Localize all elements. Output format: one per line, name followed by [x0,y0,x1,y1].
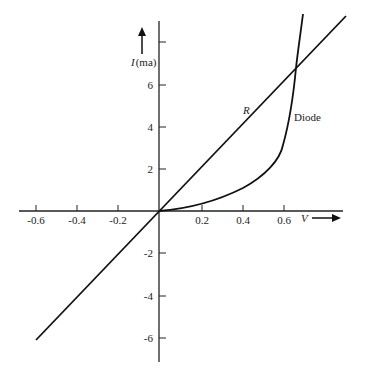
diode-curve [159,14,303,211]
x-axis-arrow-icon [312,214,341,222]
y-axis-arrow-icon [138,27,146,54]
y-tick-label: -2 [144,247,153,259]
x-axis-label: V [301,212,309,224]
iv-characteristic-chart: -0.6 -0.4 -0.2 0.2 0.4 0.6 6 4 2 -2 -4 -… [0,0,365,376]
x-tick-label: -0.4 [68,214,86,226]
resistor-label: R [242,104,250,116]
x-tick-label: 0.6 [277,214,291,226]
y-tick-label: -4 [144,290,154,302]
x-tick-label: -0.2 [109,214,126,226]
y-tick-label: 2 [148,163,154,175]
x-tick-label: -0.6 [27,214,45,226]
y-axis-label: I(ma) [130,56,157,69]
resistor-line [36,16,346,340]
x-tick-label: 0.2 [195,214,209,226]
y-ticks [159,42,166,338]
y-tick-label: 6 [148,79,154,91]
y-tick-label: -6 [144,332,154,344]
diode-label: Diode [294,111,321,123]
y-tick-label: 4 [148,121,154,133]
x-tick-label: 0.4 [236,214,250,226]
